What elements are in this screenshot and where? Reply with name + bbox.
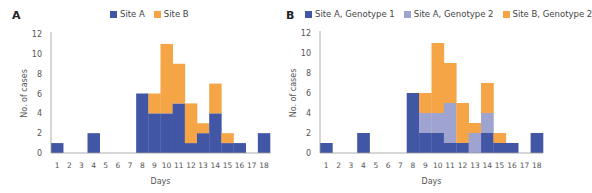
x-tick-label: 18 [259, 161, 269, 170]
bar-segment [493, 133, 506, 143]
bar-segment [161, 44, 173, 113]
y-tick-label: 6 [306, 89, 311, 98]
x-axis-label: Days [151, 177, 171, 186]
bar-segment [456, 143, 469, 153]
x-tick-label: 16 [235, 161, 245, 170]
y-tick-label: 0 [306, 149, 311, 158]
bar-segment [173, 103, 185, 153]
panel-a: A Site A Site B 024681012123456789101112… [0, 0, 276, 193]
x-tick-label: 11 [174, 161, 184, 170]
bar-segment [432, 43, 445, 113]
x-tick-label: 15 [223, 161, 233, 170]
bar-segment [221, 133, 233, 143]
x-tick-label: 4 [91, 161, 96, 170]
bar-segment [481, 133, 494, 153]
bar-segment [469, 133, 482, 153]
bar-segment [88, 133, 100, 153]
chart-b: 024681012123456789101112131415161718Days… [276, 0, 553, 193]
x-tick-label: 1 [324, 161, 329, 170]
y-axis-label: No. of cases [289, 69, 298, 118]
bar-segment [481, 113, 494, 133]
y-tick-label: 6 [37, 90, 42, 99]
bar-segment [419, 113, 432, 133]
bar-segment [197, 123, 209, 133]
x-tick-label: 14 [483, 161, 493, 170]
bar-segment [51, 143, 63, 153]
y-tick-label: 10 [301, 49, 311, 58]
x-tick-label: 9 [152, 161, 157, 170]
x-tick-label: 18 [532, 161, 542, 170]
x-tick-label: 2 [67, 161, 72, 170]
bar-segment [185, 143, 197, 153]
x-tick-label: 5 [373, 161, 378, 170]
x-tick-label: 10 [162, 161, 172, 170]
y-tick-label: 2 [306, 129, 311, 138]
x-tick-label: 6 [116, 161, 121, 170]
x-tick-label: 4 [361, 161, 366, 170]
bar-segment [469, 123, 482, 133]
bar-segment [506, 143, 519, 153]
bar-segment [456, 103, 469, 143]
x-tick-label: 17 [520, 161, 530, 170]
x-tick-label: 14 [211, 161, 221, 170]
bar-segment [481, 83, 494, 113]
y-tick-label: 2 [37, 129, 42, 138]
chart-a: 024681012123456789101112131415161718Days… [0, 0, 276, 193]
bar-segment [148, 94, 160, 114]
bar-segment [432, 113, 445, 133]
x-tick-label: 3 [349, 161, 354, 170]
bar-segment [161, 113, 173, 153]
x-tick-label: 16 [507, 161, 517, 170]
x-tick-label: 1 [55, 161, 60, 170]
bar-segment [444, 143, 457, 153]
y-tick-label: 10 [32, 50, 42, 59]
bar-segment [419, 93, 432, 113]
y-tick-label: 4 [306, 109, 311, 118]
x-tick-label: 10 [433, 161, 443, 170]
bar-segment [258, 133, 270, 153]
bar-segment [173, 64, 185, 104]
x-tick-label: 3 [79, 161, 84, 170]
x-tick-label: 8 [140, 161, 145, 170]
bar-segment [493, 143, 506, 153]
bar-segment [444, 63, 457, 103]
x-tick-label: 7 [128, 161, 133, 170]
x-tick-label: 12 [186, 161, 196, 170]
panel-b: B Site A, Genotype 1 Site A, Genotype 2 … [276, 0, 553, 193]
bar-segment [136, 94, 148, 154]
x-axis-label: Days [422, 177, 442, 186]
bar-segment [531, 133, 544, 153]
bar-segment [234, 143, 246, 153]
bar-segment [185, 103, 197, 143]
x-tick-label: 5 [103, 161, 108, 170]
x-tick-label: 7 [398, 161, 403, 170]
x-tick-label: 8 [411, 161, 416, 170]
y-tick-label: 12 [32, 30, 42, 39]
x-tick-label: 11 [445, 161, 455, 170]
x-tick-label: 13 [198, 161, 208, 170]
y-tick-label: 4 [37, 109, 42, 118]
y-axis-label: No. of cases [20, 69, 29, 118]
y-tick-label: 12 [301, 29, 311, 38]
x-tick-label: 6 [386, 161, 391, 170]
x-tick-label: 13 [470, 161, 480, 170]
bar-segment [444, 103, 457, 143]
bar-segment [407, 93, 420, 153]
x-tick-label: 15 [495, 161, 505, 170]
x-tick-label: 12 [458, 161, 468, 170]
bar-segment [197, 133, 209, 153]
bar-segment [419, 133, 432, 153]
y-tick-label: 8 [37, 70, 42, 79]
x-tick-label: 17 [247, 161, 257, 170]
bar-segment [148, 113, 160, 153]
bar-segment [320, 143, 333, 153]
bar-segment [209, 84, 221, 114]
bar-segment [221, 143, 233, 153]
y-tick-label: 8 [306, 69, 311, 78]
y-tick-label: 0 [37, 149, 42, 158]
bar-segment [357, 133, 370, 153]
bar-segment [209, 113, 221, 153]
x-tick-label: 9 [423, 161, 428, 170]
x-tick-label: 2 [336, 161, 341, 170]
bar-segment [432, 133, 445, 153]
